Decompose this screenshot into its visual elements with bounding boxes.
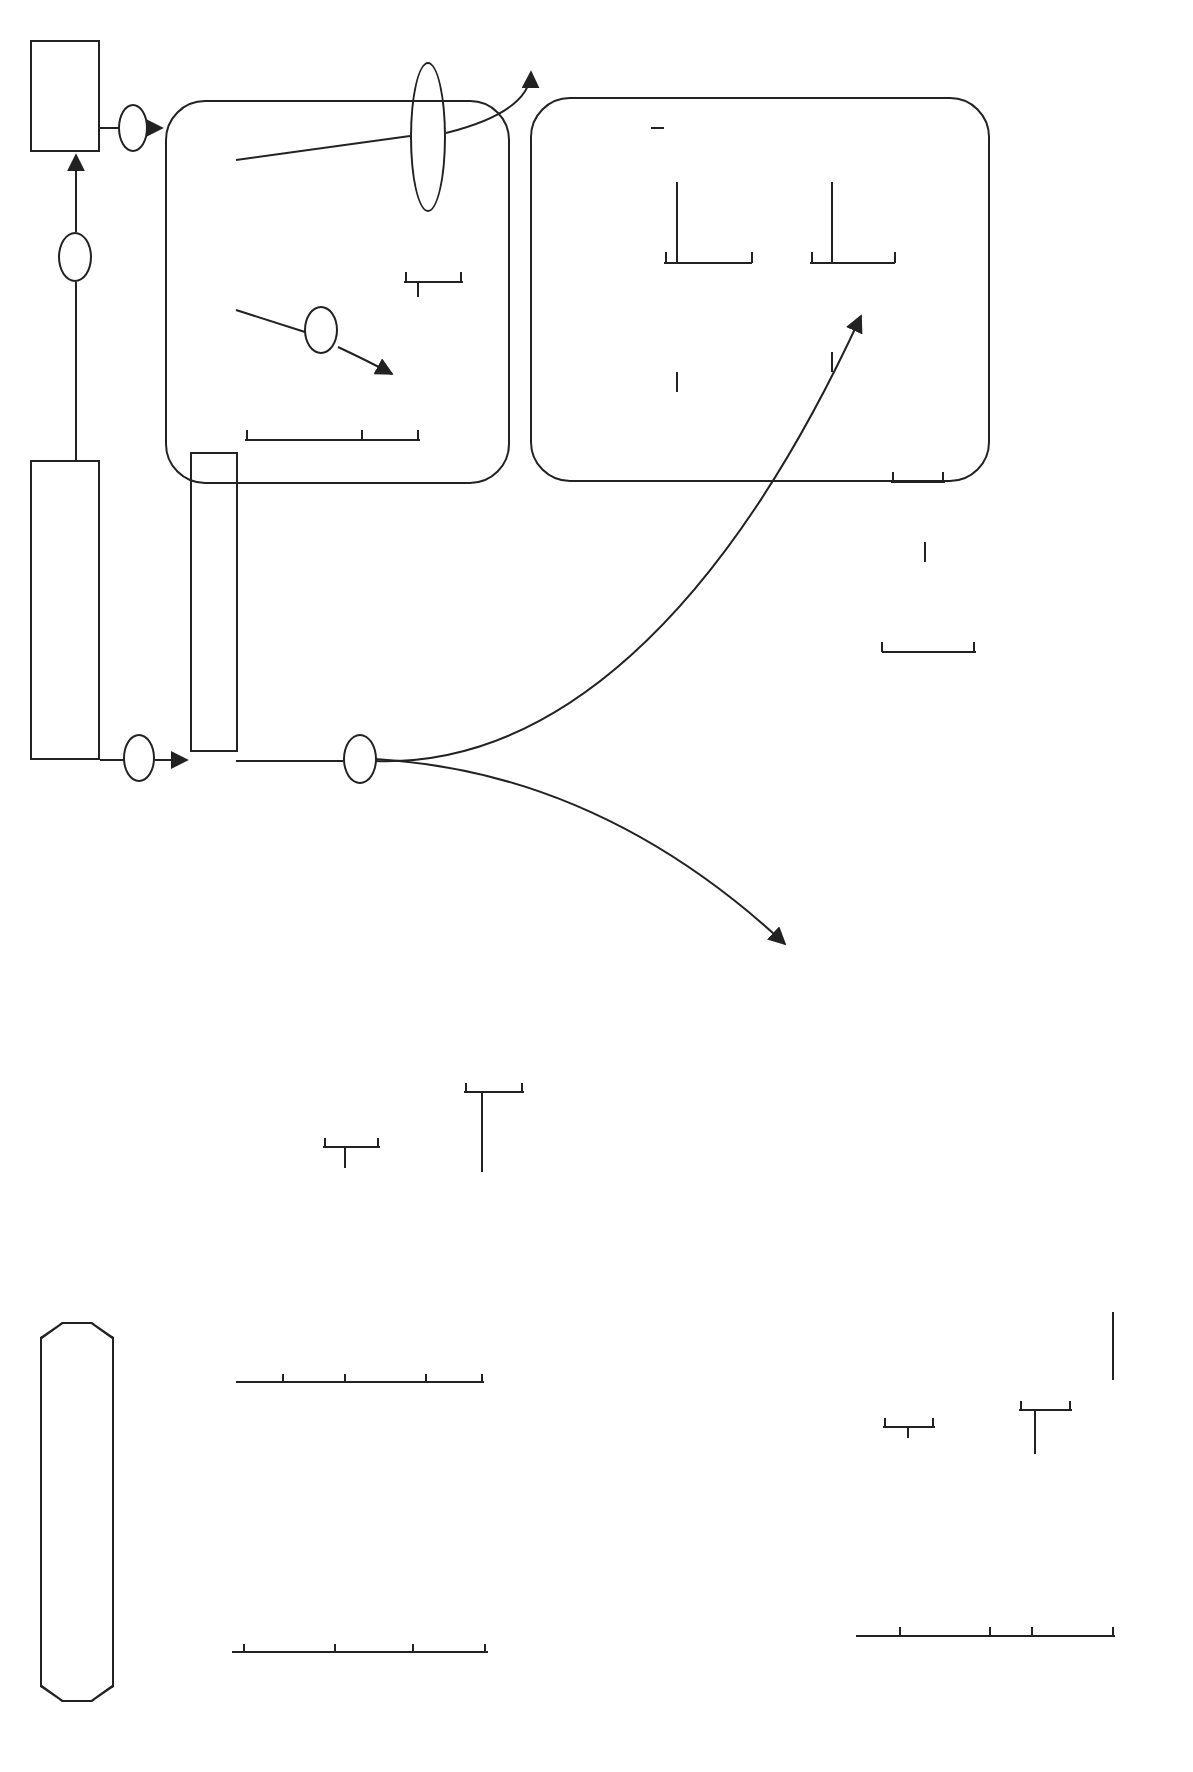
more-than-two-groups-panel: [530, 97, 990, 482]
edge-two-to-paired: [375, 759, 785, 944]
edge-label-one-variable: [123, 734, 155, 782]
number-of-groups-two-variables-node: [30, 40, 100, 152]
chart-title: [42, 1324, 112, 1700]
two-way-anova-option: [792, 149, 810, 249]
kruskal-wallis-option: [722, 149, 740, 249]
flowchart-canvas: [0, 0, 1193, 1772]
number-of-groups-node: [190, 452, 238, 752]
measure-association-text: [354, 227, 372, 427]
edge-label-one-group-two-variables: [118, 104, 148, 152]
edge-label-two-groups: [343, 734, 377, 784]
number-of-variables-node: [30, 460, 100, 760]
friedmann-option: [866, 149, 884, 249]
paired-xy-panel: [165, 100, 510, 484]
edge-label-two-variables: [58, 232, 92, 282]
one-way-anova-option: [646, 149, 664, 249]
